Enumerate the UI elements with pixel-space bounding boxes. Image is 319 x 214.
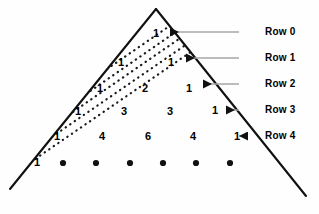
row-label-0: Row 0 <box>265 27 295 37</box>
triangle-cell-value: 1 <box>212 105 218 116</box>
continuation-dot-0 <box>60 160 66 166</box>
triangle-cell-value: 1 <box>118 57 124 68</box>
row-label-1: Row 1 <box>265 53 295 63</box>
triangle-right-edge <box>156 9 306 196</box>
triangle-cell-value: 3 <box>167 106 173 117</box>
triangle-cell-value: 4 <box>99 131 105 142</box>
triangle-cell-value: 1 <box>186 83 192 94</box>
triangle-cell-value: 1 <box>97 83 103 94</box>
triangle-cell-value: 1 <box>234 131 240 142</box>
continuation-dot-3 <box>160 160 166 166</box>
continuation-dot-4 <box>193 160 199 166</box>
triangle-cell-value: 1 <box>75 106 81 117</box>
pascals-triangle-figure: 1111211331146411 Row 0Row 1Row 2Row 3Row… <box>0 0 319 214</box>
dotted-diagonal-2 <box>64 0 240 118</box>
triangle-cell-value: 1 <box>153 28 159 39</box>
dotted-diagonal-3 <box>86 0 248 94</box>
triangle-left-edge <box>10 9 156 189</box>
triangle-cell-value: 1 <box>54 131 60 142</box>
continuation-dot-5 <box>227 160 233 166</box>
row-label-4: Row 4 <box>265 131 295 141</box>
triangle-cell-value: 1 <box>168 57 174 68</box>
triangle-cell-value: 3 <box>121 106 127 117</box>
row-leader-lines <box>170 32 248 136</box>
triangle-cell-value: 2 <box>142 83 148 94</box>
triangle-cell-value: 6 <box>145 131 151 142</box>
continuation-dot-1 <box>93 160 99 166</box>
triangle-cell-value: 4 <box>190 131 196 142</box>
continuation-dot-2 <box>127 160 133 166</box>
row-label-2: Row 2 <box>265 79 295 89</box>
row-label-3: Row 3 <box>265 105 295 115</box>
continuation-dots <box>60 160 233 166</box>
triangle-cell-value: 1 <box>34 157 40 168</box>
